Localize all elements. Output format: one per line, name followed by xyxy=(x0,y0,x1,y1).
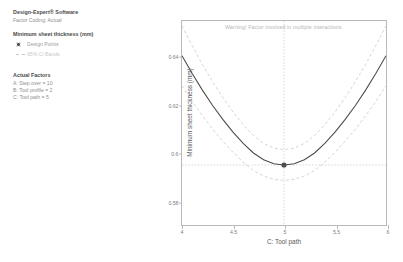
x-tick-label: 4 xyxy=(181,229,184,235)
x-tick-label: 5 xyxy=(284,229,287,235)
legend-item-ci-bands[interactable]: 95% CI Bands xyxy=(13,51,133,58)
x-axis-title: C: Tool path xyxy=(182,238,386,245)
actual-factor-c: C: Tool path = 5 xyxy=(13,94,133,101)
y-tick-label: 0.62 xyxy=(168,103,178,109)
y-tick-mark xyxy=(179,105,182,106)
y-tick-label: 0.6 xyxy=(171,151,178,157)
y-tick-label: 0.58 xyxy=(168,200,178,206)
y-tick-mark xyxy=(179,154,182,155)
factor-coding-label: Factor Coding: Actual xyxy=(13,17,133,24)
x-tick-label: 6 xyxy=(387,229,390,235)
actual-factors-heading: Actual Factors xyxy=(13,72,133,79)
legend-panel: Design-Expert® Software Factor Coding: A… xyxy=(13,9,133,101)
legend-item-design-points[interactable]: Design Points xyxy=(13,41,133,48)
y-tick-mark xyxy=(179,57,182,58)
plot-frame: Warning! Factor involved in multiple int… xyxy=(181,20,387,226)
chart-area: Warning! Factor involved in multiple int… xyxy=(126,6,398,258)
design-expert-plot-screenshot: Design-Expert® Software Factor Coding: A… xyxy=(0,0,403,262)
plot-canvas xyxy=(182,21,386,225)
actual-factor-b: B: Tool profile = 2 xyxy=(13,87,133,94)
dashed-line-icon xyxy=(16,54,27,55)
design-point-markers xyxy=(281,162,286,167)
y-tick-label: 0.64 xyxy=(168,54,178,60)
filled-circle-icon xyxy=(16,42,27,47)
actual-factor-a: A: Step over = 10 xyxy=(13,80,133,87)
response-name-label: Minimum sheet thickness (mm) xyxy=(13,31,133,38)
x-tick-label: 5.5 xyxy=(333,229,340,235)
y-axis-title: Minimum sheet thickness (mm) xyxy=(186,38,193,188)
legend-item-label: Design Points xyxy=(27,41,58,48)
legend-item-label: 95% CI Bands xyxy=(27,51,60,58)
software-brand-label: Design-Expert® Software xyxy=(13,9,133,16)
crosshair-lines xyxy=(182,21,386,225)
x-tick-label: 4.5 xyxy=(230,229,237,235)
y-tick-mark xyxy=(179,202,182,203)
actual-factors-block: Actual Factors A: Step over = 10 B: Tool… xyxy=(13,72,133,101)
